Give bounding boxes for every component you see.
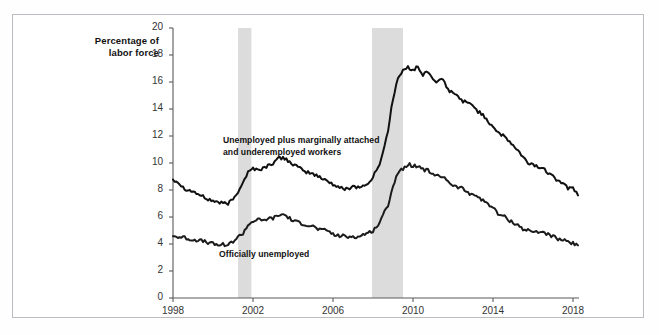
x-tick-label-2006: 2006 [311, 305, 355, 316]
u3-series-label: Officially unemployed [219, 249, 309, 261]
y-tick-label-10: 10 [137, 156, 163, 167]
recession-2008-band [372, 28, 403, 298]
x-tick-label-1998: 1998 [151, 305, 195, 316]
y-tick-label-18: 18 [137, 48, 163, 59]
y-tick-label-16: 16 [137, 75, 163, 86]
y-tick-label-14: 14 [137, 102, 163, 113]
chart-figure: Percentage of labor force 02468101214161… [0, 0, 659, 335]
x-tick-label-2014: 2014 [471, 305, 515, 316]
y-tick-label-12: 12 [137, 129, 163, 140]
y-tick-label-6: 6 [137, 210, 163, 221]
y-tick-label-8: 8 [137, 183, 163, 194]
chart-frame: Percentage of labor force 02468101214161… [12, 14, 644, 318]
x-tick-label-2002: 2002 [231, 305, 275, 316]
y-tick-label-2: 2 [137, 264, 163, 275]
chart-plot-area [13, 15, 643, 317]
u6-series-label: Unemployed plus marginally attached and … [223, 135, 379, 158]
y-tick-label-20: 20 [137, 21, 163, 32]
x-tick-label-2018: 2018 [551, 305, 595, 316]
x-tick-label-2010: 2010 [391, 305, 435, 316]
y-tick-label-4: 4 [137, 237, 163, 248]
y-tick-label-0: 0 [137, 291, 163, 302]
